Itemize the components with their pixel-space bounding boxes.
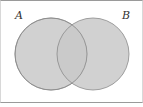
set-a-label: A: [14, 9, 23, 22]
set-b-label: B: [121, 9, 130, 22]
venn-diagram: A B: [0, 0, 143, 107]
set-b-circle: [57, 18, 129, 90]
